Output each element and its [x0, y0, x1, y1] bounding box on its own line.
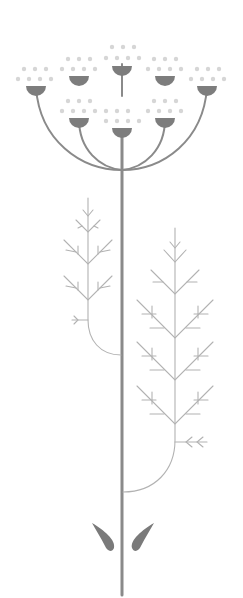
- right-fern: [123, 228, 213, 492]
- flower-head-top: [112, 66, 132, 76]
- flower-head-upper-right: [155, 76, 175, 86]
- flower-head-lower-center: [112, 128, 132, 138]
- flower-head-upper-left: [69, 76, 89, 86]
- plant-illustration: [0, 0, 243, 598]
- flower-head-lower-right: [155, 118, 175, 128]
- flower-head-far-left: [26, 86, 46, 96]
- flower-head-far-right: [197, 86, 217, 96]
- flower-head-lower-left: [69, 118, 89, 128]
- left-leaf: [92, 523, 114, 551]
- left-fern: [64, 198, 121, 355]
- right-leaf: [132, 523, 154, 551]
